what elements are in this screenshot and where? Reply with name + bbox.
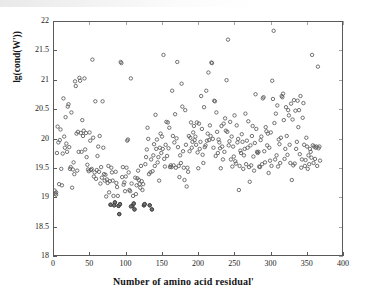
data-point: [141, 188, 144, 191]
x-axis-tick-top: [89, 21, 90, 25]
y-axis-tick-right: [339, 50, 343, 51]
data-point: [73, 80, 76, 83]
data-point: [105, 195, 108, 198]
data-point: [298, 152, 301, 155]
x-axis-tick-label: 100: [108, 259, 144, 268]
data-point: [72, 161, 75, 164]
data-point: [212, 146, 215, 149]
data-point: [178, 175, 181, 178]
data-point: [308, 162, 311, 165]
data-point: [236, 141, 239, 144]
y-axis-tick-label: 21.5: [19, 45, 49, 54]
data-point: [184, 143, 187, 146]
data-point: [173, 141, 176, 144]
data-point: [62, 135, 65, 138]
data-point: [134, 192, 137, 195]
data-point: [129, 77, 132, 80]
scatter-points-layer: [54, 22, 344, 257]
x-axis-tick-top: [234, 21, 235, 25]
data-point: [276, 104, 279, 107]
data-point: [271, 79, 274, 82]
data-point: [98, 134, 101, 137]
data-point: [291, 118, 294, 121]
x-axis-tick-top: [198, 21, 199, 25]
data-point: [303, 164, 306, 167]
data-point: [259, 138, 262, 141]
data-point: [276, 165, 279, 168]
data-point: [254, 93, 257, 96]
data-point: [289, 102, 292, 105]
data-point: [292, 98, 295, 101]
data-point: [74, 84, 77, 87]
data-point: [157, 155, 160, 158]
data-point: [229, 158, 232, 161]
data-point: [255, 127, 258, 130]
data-point: [59, 128, 62, 131]
data-point: [62, 97, 65, 100]
data-point: [73, 172, 76, 175]
data-point: [242, 167, 245, 170]
data-point: [268, 146, 271, 149]
data-point: [288, 143, 291, 146]
data-point: [264, 125, 267, 128]
data-point: [167, 147, 170, 150]
data-point: [228, 140, 231, 143]
x-axis-tick: [198, 252, 199, 256]
x-axis-tick-label: 0: [35, 259, 71, 268]
data-point: [271, 97, 274, 100]
data-point-dark: [132, 202, 135, 205]
data-point: [263, 161, 266, 164]
data-point: [179, 161, 182, 164]
data-point: [244, 112, 247, 115]
data-point: [189, 121, 192, 124]
data-point: [56, 125, 59, 128]
data-point: [188, 150, 191, 153]
x-axis-tick-top: [271, 21, 272, 25]
data-point: [110, 171, 113, 174]
data-point: [312, 161, 315, 164]
data-point: [211, 137, 214, 140]
data-point-dark: [129, 205, 132, 208]
data-point: [223, 117, 226, 120]
data-point: [230, 135, 233, 138]
data-point: [300, 158, 303, 161]
data-point: [186, 170, 189, 173]
data-point: [202, 105, 205, 108]
data-point: [146, 126, 149, 129]
data-point: [55, 151, 58, 154]
data-point: [68, 145, 71, 148]
data-point: [310, 156, 313, 159]
x-axis-tick-label: 50: [71, 259, 107, 268]
plot-area: [53, 21, 343, 256]
y-axis-tick: [53, 256, 57, 257]
data-point: [160, 151, 163, 154]
y-axis-tick-label: 20: [19, 134, 49, 143]
data-point: [81, 134, 84, 137]
data-point: [171, 134, 174, 137]
data-point: [233, 114, 236, 117]
data-point: [144, 155, 147, 158]
x-axis-tick: [307, 252, 308, 256]
data-point: [202, 161, 205, 164]
x-axis-tick: [89, 252, 90, 256]
y-axis-tick: [53, 80, 57, 81]
x-axis-tick: [343, 252, 344, 256]
data-point: [310, 53, 313, 56]
data-point: [201, 153, 204, 156]
data-point: [114, 170, 117, 173]
data-point: [152, 143, 155, 146]
data-point: [222, 122, 225, 125]
y-axis-tick-right: [339, 109, 343, 110]
data-point: [112, 194, 115, 197]
data-point: [244, 162, 247, 165]
data-point: [94, 177, 97, 180]
data-point: [273, 121, 276, 124]
data-point: [181, 150, 184, 153]
data-point: [85, 155, 88, 158]
x-axis-tick-label: 200: [180, 259, 216, 268]
data-point: [237, 188, 240, 191]
x-axis-tick-top: [162, 21, 163, 25]
data-point: [225, 78, 228, 81]
data-point: [149, 158, 152, 161]
data-point: [252, 155, 255, 158]
